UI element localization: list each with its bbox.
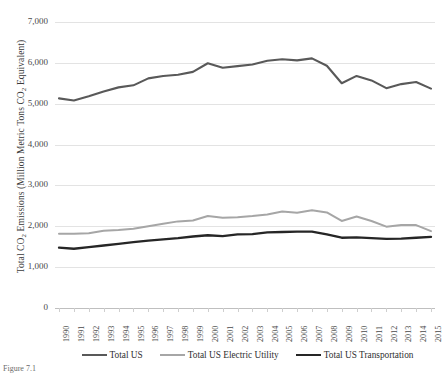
y-tick-label: 3,000	[2, 179, 48, 189]
x-tick-label: 2003	[256, 326, 265, 342]
y-tick-label: 0	[2, 302, 48, 312]
legend-swatch	[296, 354, 321, 356]
x-tick-mark	[342, 308, 343, 312]
x-tick-mark	[416, 308, 417, 312]
x-tick-label: 2011	[375, 326, 384, 342]
figure-caption: Figure 7.1	[3, 364, 36, 373]
x-tick-mark	[282, 308, 283, 312]
x-tick-label: 2000	[211, 326, 220, 342]
legend-label: Total US Electric Utility	[188, 350, 279, 360]
x-tick-mark	[104, 308, 105, 312]
x-axis-tick-labels: 1990199119921993199419951996199719981999…	[55, 310, 435, 344]
x-tick-mark	[193, 308, 194, 312]
y-tick-label: 4,000	[2, 139, 48, 149]
x-tick-mark	[89, 308, 90, 312]
x-tick-label: 1994	[122, 326, 131, 342]
x-tick-label: 1999	[196, 326, 205, 342]
legend-swatch	[82, 354, 107, 356]
x-tick-mark	[178, 308, 179, 312]
x-tick-label: 2008	[330, 326, 339, 342]
x-tick-label: 2012	[390, 326, 399, 342]
x-tick-mark	[119, 308, 120, 312]
x-tick-mark	[59, 308, 60, 312]
plot-area	[55, 22, 435, 308]
y-tick-label: 7,000	[2, 16, 48, 26]
x-tick-mark	[74, 308, 75, 312]
legend-label: Total US	[110, 350, 143, 360]
line-series	[59, 210, 431, 233]
x-tick-label: 1992	[92, 326, 101, 342]
x-axis-line	[55, 308, 435, 309]
line-series	[59, 58, 431, 100]
x-tick-label: 2015	[434, 326, 443, 342]
legend-swatch	[160, 354, 185, 356]
x-tick-label: 1998	[181, 326, 190, 342]
x-tick-label: 2001	[226, 326, 235, 342]
x-tick-mark	[148, 308, 149, 312]
legend-label: Total US Transportation	[324, 350, 414, 360]
y-tick-label: 2,000	[2, 220, 48, 230]
y-tick-label: 5,000	[2, 98, 48, 108]
x-tick-mark	[133, 308, 134, 312]
x-tick-mark	[312, 308, 313, 312]
x-tick-label: 2007	[315, 326, 324, 342]
x-tick-mark	[252, 308, 253, 312]
x-tick-mark	[208, 308, 209, 312]
x-tick-label: 2002	[241, 326, 250, 342]
x-tick-label: 2013	[404, 326, 413, 342]
x-tick-label: 2006	[300, 326, 309, 342]
x-tick-label: 1991	[77, 326, 86, 342]
x-tick-mark	[223, 308, 224, 312]
series-lines	[55, 22, 435, 308]
x-tick-label: 2005	[285, 326, 294, 342]
x-tick-label: 1990	[62, 326, 71, 342]
x-tick-mark	[297, 308, 298, 312]
x-tick-mark	[238, 308, 239, 312]
legend-item: Total US	[82, 350, 143, 360]
legend-item: Total US Transportation	[296, 350, 414, 360]
legend-item: Total US Electric Utility	[160, 350, 279, 360]
x-tick-mark	[401, 308, 402, 312]
x-tick-label: 2004	[271, 326, 280, 342]
x-tick-mark	[431, 308, 432, 312]
x-tick-mark	[357, 308, 358, 312]
y-tick-label: 6,000	[2, 57, 48, 67]
x-tick-label: 1995	[137, 326, 146, 342]
x-tick-mark	[327, 308, 328, 312]
x-tick-label: 2014	[419, 326, 428, 342]
x-tick-mark	[371, 308, 372, 312]
x-tick-label: 1997	[166, 326, 175, 342]
x-tick-label: 2010	[360, 326, 369, 342]
x-tick-label: 2009	[345, 326, 354, 342]
x-tick-mark	[267, 308, 268, 312]
chart-legend: Total USTotal US Electric UtilityTotal U…	[55, 346, 440, 364]
x-tick-mark	[163, 308, 164, 312]
line-series	[59, 232, 431, 249]
x-tick-label: 1996	[151, 326, 160, 342]
x-tick-label: 1993	[107, 326, 116, 342]
chart-figure: Total CO2 Emissions (Million Metric Tons…	[0, 0, 444, 376]
y-tick-label: 1,000	[2, 261, 48, 271]
x-tick-mark	[386, 308, 387, 312]
